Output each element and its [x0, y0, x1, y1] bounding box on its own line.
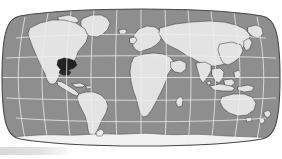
land-sri-lanka: [207, 81, 211, 85]
world-map-figure[interactable]: [0, 8, 282, 147]
world-map-svg[interactable]: [0, 8, 282, 147]
bottom-status-bar[interactable]: [0, 147, 72, 155]
map-screenshot-root: [0, 0, 282, 159]
